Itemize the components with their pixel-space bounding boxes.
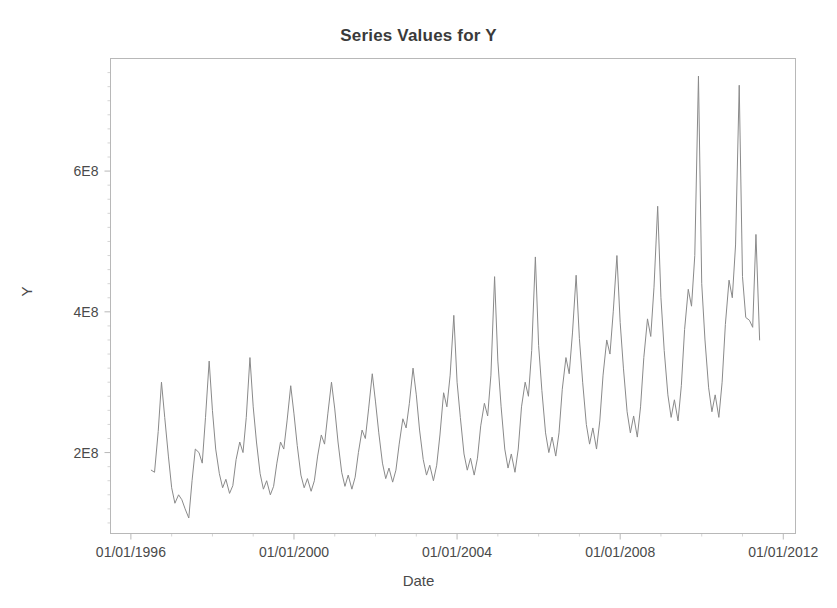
x-tick-label: 01/01/2008	[585, 544, 655, 560]
tick-marks-layer	[105, 73, 784, 540]
series-line-y	[151, 76, 759, 518]
x-tick-label: 01/01/2012	[748, 544, 818, 560]
y-tick-label: 6E8	[74, 163, 99, 179]
plot-frame	[111, 59, 796, 534]
y-tick-label: 2E8	[74, 445, 99, 461]
axes-layer	[111, 59, 796, 534]
x-tick-label: 01/01/2000	[259, 544, 329, 560]
plot-svg: 2E84E86E801/01/199601/01/200001/01/20040…	[0, 0, 837, 608]
x-tick-label: 01/01/2004	[422, 544, 492, 560]
x-tick-label: 01/01/1996	[96, 544, 166, 560]
chart-container: Series Values for Y Y Date 2E84E86E801/0…	[0, 0, 837, 608]
data-series-layer	[151, 76, 759, 518]
y-tick-label: 4E8	[74, 304, 99, 320]
